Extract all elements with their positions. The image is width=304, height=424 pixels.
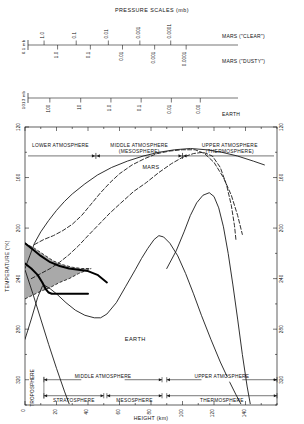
earth-band-stratosphere-label: STRATOSPHERE bbox=[53, 398, 95, 403]
y-tick-label: 160 bbox=[16, 173, 21, 181]
y-tick-label-right: 320 bbox=[279, 375, 284, 383]
pressure-tick-label: 0.001 bbox=[151, 51, 156, 63]
pressure-tick-label: 0.01 bbox=[167, 104, 172, 114]
y-tick-label-right: 120 bbox=[279, 123, 284, 131]
x-tick-label: 100 bbox=[179, 409, 184, 417]
y-tick-label: 240 bbox=[16, 274, 21, 282]
y-tick-label: 280 bbox=[16, 325, 21, 333]
pressure-scale-row-label: MARS ("DUSTY") bbox=[222, 58, 265, 64]
annotation-earth: EARTH bbox=[125, 336, 146, 342]
pressure-tick-label: 0.0001 bbox=[182, 51, 187, 66]
x-tick-label: 60 bbox=[116, 409, 121, 415]
mars-band-upper-atmosphere-label: UPPER ATMOSPHERE bbox=[202, 143, 258, 148]
earth-band-middle-atmosphere-label: MIDDLE ATMOSPHERE bbox=[75, 374, 132, 379]
pressure-tick-label: 0.1 bbox=[137, 104, 142, 111]
mars-band-upper-atmosphere-sublabel: (THERMOSPHERE) bbox=[206, 149, 254, 154]
pressure-tick-label: 0.1 bbox=[72, 31, 77, 38]
pressure-tick-label: 0.001 bbox=[136, 26, 141, 38]
atmosphere-temperature-figure: PRESSURE SCALES (mb) 6.1 mb1.00.10.010.0… bbox=[0, 0, 304, 424]
y-tick-label: 320 bbox=[16, 375, 21, 383]
pressure-tick-label: 0.00 bbox=[196, 104, 201, 114]
earth-band-upper-atmosphere-label: UPPER ATMOSPHERE bbox=[194, 374, 249, 379]
x-tick-label: 0 bbox=[21, 409, 26, 412]
pressure-origin-label: 6.1 mb bbox=[21, 39, 26, 54]
x-tick-label: 80 bbox=[147, 409, 152, 415]
pressure-tick-label: 0.0001 bbox=[167, 23, 172, 38]
y-tick-label-right: 240 bbox=[279, 274, 284, 282]
pressure-tick-label: 10 bbox=[77, 104, 82, 110]
x-tick-label: 140 bbox=[242, 409, 247, 417]
pressure-tick-label: 1.0 bbox=[54, 51, 59, 58]
pressure-tick-label: 0.01 bbox=[119, 51, 124, 61]
earth-band-thermosphere-label: THERMOSPHERE bbox=[200, 398, 244, 403]
pressure-tick-label: 1.0 bbox=[40, 31, 45, 38]
x-tick-label: 20 bbox=[53, 409, 58, 415]
y-tick-label-right: 200 bbox=[279, 224, 284, 232]
pressure-tick-label: 100 bbox=[46, 104, 51, 112]
y-tick-label: 120 bbox=[16, 123, 21, 131]
mars-group-label: MARS bbox=[142, 164, 159, 170]
pressure-scales-title: PRESSURE SCALES (mb) bbox=[115, 7, 189, 13]
x-tick-label: 40 bbox=[84, 409, 89, 415]
mars-band-middle-atmosphere-sublabel: (MESOSPHERE) bbox=[119, 149, 160, 154]
x-axis-label: HEIGHT (km) bbox=[134, 415, 169, 421]
chart-annotations: EARTH bbox=[125, 336, 146, 342]
y-tick-label: 200 bbox=[16, 224, 21, 232]
pressure-tick-label: 0.1 bbox=[86, 51, 91, 58]
y-tick-label-right: 280 bbox=[279, 325, 284, 333]
pressure-tick-label: 0.01 bbox=[104, 29, 109, 39]
pressure-scale-row-label: MARS ("CLEAR") bbox=[222, 33, 265, 39]
pressure-origin-label: 1013 mb bbox=[21, 90, 26, 109]
pressure-tick-label: 1.0 bbox=[107, 104, 112, 111]
y-axis-label: TEMPERATURE (°K) bbox=[4, 240, 10, 292]
earth-troposphere-label: TROPOSPHERE bbox=[30, 369, 35, 406]
mars-band-lower-atmosphere-label: LOWER ATMOSPHERE bbox=[32, 143, 89, 148]
earth-band-mesosphere-label: MESOSPHERE bbox=[116, 398, 152, 403]
y-tick-label-right: 160 bbox=[279, 173, 284, 181]
mars-band-middle-atmosphere-label: MIDDLE ATMOSPHERE bbox=[110, 143, 168, 148]
pressure-scale-row-label: EARTH bbox=[222, 111, 240, 117]
x-tick-label: 120 bbox=[210, 409, 215, 417]
